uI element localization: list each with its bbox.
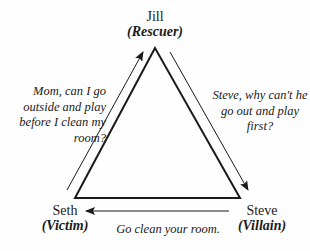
node-name: Jill [120,9,190,24]
message-bottom: Go clean your room. [108,222,228,238]
node-name: Seth [30,203,100,218]
node-role: (Villain) [222,218,302,233]
node-villain: Steve (Villain) [222,203,302,233]
node-role: (Rescuer) [120,24,190,39]
node-rescuer: Jill (Rescuer) [120,9,190,39]
message-right: Steve, why can't he go out and play firs… [212,88,308,135]
message-left: Mom, can I go outside and play before I … [14,84,106,146]
node-name: Steve [222,203,302,218]
drama-triangle-diagram: Jill (Rescuer) Seth (Victim) Steve (Vill… [0,0,310,251]
node-victim: Seth (Victim) [30,203,100,233]
node-role: (Victim) [30,218,100,233]
